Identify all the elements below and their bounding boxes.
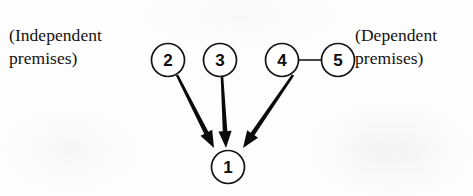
- node-number: 4: [277, 51, 287, 70]
- inference-arrow: [243, 74, 294, 148]
- nodes-layer: 12345: [152, 44, 355, 184]
- inference-arrow: [218, 77, 231, 148]
- arrows-layer: [176, 74, 294, 148]
- node-number: 1: [223, 158, 232, 177]
- argument-diagram: (Independent premises) (Dependent premis…: [0, 0, 473, 196]
- proposition-node-3[interactable]: 3: [204, 44, 237, 77]
- proposition-node-2[interactable]: 2: [152, 44, 185, 77]
- node-number: 3: [215, 51, 224, 70]
- proposition-node-4[interactable]: 4: [266, 44, 299, 77]
- node-number: 2: [163, 51, 172, 70]
- diagram-canvas: 12345: [0, 0, 473, 196]
- node-number: 5: [333, 51, 342, 70]
- proposition-node-1[interactable]: 1: [212, 151, 245, 184]
- inference-arrow: [176, 74, 214, 148]
- proposition-node-5[interactable]: 5: [322, 44, 355, 77]
